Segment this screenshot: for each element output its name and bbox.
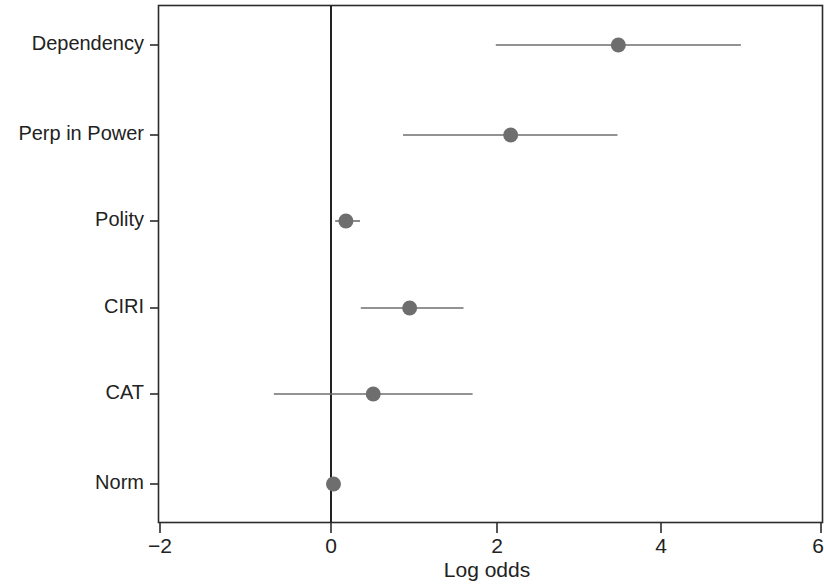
x-axis-ticks [160, 522, 821, 533]
estimate-point [366, 387, 381, 402]
estimate-point [611, 38, 626, 53]
x-tick-label-4: 4 [655, 534, 667, 557]
estimate-point [402, 301, 417, 316]
plot-canvas: Dependency Perp in Power Polity CIRI CAT… [0, 0, 824, 587]
x-axis-title: Log odds [444, 558, 530, 581]
x-tick-label-6: 6 [812, 534, 824, 557]
x-tick-label-neg2: −2 [148, 534, 172, 557]
y-tick-label-dependency: Dependency [32, 32, 144, 54]
y-tick-label-norm: Norm [95, 471, 144, 493]
y-axis-ticks [150, 45, 158, 484]
y-tick-label-ciri: CIRI [104, 295, 144, 317]
coefficient-plot-figure: Dependency Perp in Power Polity CIRI CAT… [0, 0, 824, 587]
y-tick-label-polity: Polity [95, 208, 144, 230]
estimate-point [503, 128, 518, 143]
data-series-layer [274, 38, 741, 492]
x-tick-label-2: 2 [491, 534, 503, 557]
estimate-point [338, 214, 353, 229]
x-tick-label-0: 0 [325, 534, 337, 557]
plot-frame [159, 6, 823, 523]
estimate-point [326, 477, 341, 492]
x-axis-labels: −2 0 2 4 6 [148, 534, 824, 557]
y-tick-label-perp-in-power: Perp in Power [18, 122, 144, 144]
y-tick-label-cat: CAT [105, 381, 144, 403]
y-axis-labels: Dependency Perp in Power Polity CIRI CAT… [18, 32, 144, 493]
